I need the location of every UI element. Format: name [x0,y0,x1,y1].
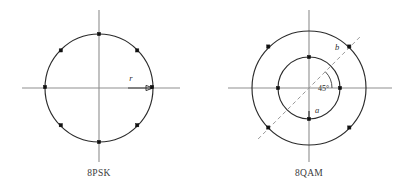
constellation-figure: r 8PSK 45° b a [0,0,412,193]
qam-inner-point-90deg [307,55,310,58]
qam-inner-point-0deg [338,86,341,89]
caption-8psk: 8PSK [87,168,110,178]
inner-radius-label-a: a [315,105,319,115]
qam-outer-point-315deg [348,126,351,129]
constellation-point-270deg [97,140,100,143]
constellation-point-45deg [136,49,139,52]
panel-8psk: r 8PSK [0,0,206,193]
qam-outer-point-45deg [348,45,351,48]
caption-8qam: 8QAM [295,168,323,178]
radius-label-r: r [129,73,133,83]
outer-radius-label-b: b [335,42,339,52]
qam-inner-point-270deg [307,117,310,120]
panel-8qam: 45° b a 8QAM [206,0,412,193]
angle-label-45deg: 45° [318,84,329,93]
constellation-point-225deg [59,124,62,127]
constellation-point-90deg [97,32,100,35]
qam-outer-point-135deg [267,45,270,48]
qam-inner-point-180deg [276,86,279,89]
constellation-point-135deg [59,49,62,52]
constellation-point-315deg [136,124,139,127]
qam-outer-point-225deg [267,126,270,129]
constellation-point-0deg [150,85,153,88]
constellation-point-180deg [43,85,46,88]
